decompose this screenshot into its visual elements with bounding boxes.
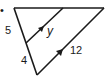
label-left-upper: 5 bbox=[5, 24, 11, 36]
bullet-marker: • bbox=[0, 4, 4, 16]
label-parallel-y: y bbox=[46, 24, 54, 38]
label-left-lower: 4 bbox=[21, 54, 27, 66]
label-base-12: 12 bbox=[70, 44, 82, 56]
right-side bbox=[37, 8, 104, 75]
parallel-segment bbox=[26, 8, 63, 43]
triangle-diagram: • 5 y 4 12 bbox=[0, 0, 109, 84]
